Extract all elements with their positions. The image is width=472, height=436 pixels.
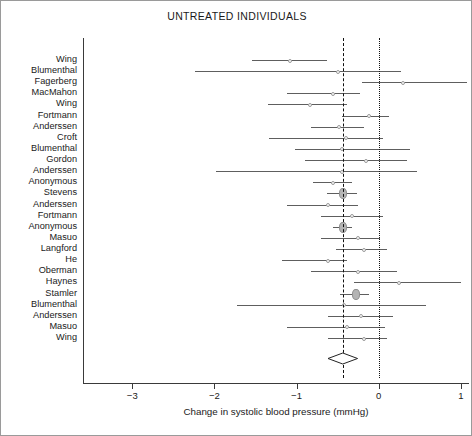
x-tick-mark bbox=[297, 384, 298, 389]
study-label: Fagerberg bbox=[1, 76, 77, 86]
confidence-interval-line bbox=[287, 327, 386, 328]
effect-estimate-marker bbox=[337, 125, 341, 129]
effect-estimate-marker bbox=[288, 59, 292, 63]
study-label: Langford bbox=[1, 243, 77, 253]
study-label: Anonymous bbox=[1, 221, 77, 231]
effect-estimate-marker bbox=[397, 281, 401, 285]
study-label: Wing bbox=[1, 332, 77, 342]
effect-estimate-marker bbox=[331, 92, 335, 96]
study-label: Fortmann bbox=[1, 110, 77, 120]
effect-estimate-marker bbox=[326, 203, 330, 207]
confidence-interval-line bbox=[305, 160, 408, 161]
study-label: MacMahon bbox=[1, 87, 77, 97]
null-effect-line bbox=[379, 38, 380, 378]
study-label-column: WingBlumenthalFagerbergMacMahonWingFortm… bbox=[1, 38, 77, 384]
pooled-effect-line bbox=[343, 38, 344, 378]
effect-estimate-marker bbox=[345, 325, 349, 329]
x-tick-mark bbox=[214, 384, 215, 389]
confidence-interval-line bbox=[321, 238, 380, 239]
effect-estimate-marker bbox=[331, 181, 335, 185]
confidence-interval-line bbox=[287, 93, 360, 94]
summary-diamond bbox=[325, 352, 361, 365]
effect-estimate-marker bbox=[352, 289, 360, 300]
effect-estimate-marker bbox=[356, 270, 360, 274]
x-axis-ticks: −3−2−101 bbox=[83, 384, 469, 390]
study-label: Anonymous bbox=[1, 176, 77, 186]
effect-estimate-marker bbox=[350, 214, 354, 218]
study-label: Oberman bbox=[1, 265, 77, 275]
plot-area bbox=[83, 38, 469, 384]
confidence-interval-line bbox=[287, 205, 358, 206]
x-axis-title: Change in systolic blood pressure (mmHg) bbox=[83, 406, 469, 417]
study-label: Masuo bbox=[1, 232, 77, 242]
confidence-interval-line bbox=[269, 138, 382, 139]
x-tick-label: −1 bbox=[291, 390, 302, 401]
confidence-interval-line bbox=[354, 282, 461, 283]
x-tick-mark bbox=[379, 384, 380, 389]
effect-estimate-marker bbox=[359, 314, 363, 318]
effect-estimate-marker bbox=[336, 70, 340, 74]
study-label: He bbox=[1, 254, 77, 264]
x-tick-label: 1 bbox=[458, 390, 463, 401]
effect-estimate-marker bbox=[308, 103, 312, 107]
study-label: Blumenthal bbox=[1, 299, 77, 309]
study-label: Masuo bbox=[1, 321, 77, 331]
study-label: Anderssen bbox=[1, 121, 77, 131]
effect-estimate-marker bbox=[364, 159, 368, 163]
study-label: Wing bbox=[1, 54, 77, 64]
page-title: UNTREATED INDIVIDUALS bbox=[1, 10, 472, 22]
study-label: Stevens bbox=[1, 187, 77, 197]
study-label: Croft bbox=[1, 132, 77, 142]
study-label: Fortmann bbox=[1, 210, 77, 220]
study-label: Stamler bbox=[1, 288, 77, 298]
effect-estimate-marker bbox=[326, 259, 330, 263]
effect-estimate-marker bbox=[362, 337, 366, 341]
confidence-interval-line bbox=[216, 171, 417, 172]
confidence-interval-line bbox=[342, 116, 389, 117]
study-label: Gordon bbox=[1, 154, 77, 164]
effect-estimate-marker bbox=[362, 248, 366, 252]
study-label: Blumenthal bbox=[1, 143, 77, 153]
confidence-interval-line bbox=[295, 149, 410, 150]
study-label: Wing bbox=[1, 98, 77, 108]
confidence-interval-line bbox=[195, 71, 401, 72]
study-label: Anderssen bbox=[1, 165, 77, 175]
y-axis-spine bbox=[83, 38, 84, 384]
confidence-interval-line bbox=[282, 260, 348, 261]
x-tick-mark bbox=[132, 384, 133, 389]
x-tick-label: 0 bbox=[376, 390, 381, 401]
effect-estimate-marker bbox=[401, 81, 405, 85]
x-tick-mark bbox=[461, 384, 462, 389]
study-label: Haynes bbox=[1, 276, 77, 286]
confidence-interval-line bbox=[237, 305, 426, 306]
effect-estimate-marker bbox=[367, 114, 371, 118]
forest-plot-figure: UNTREATED INDIVIDUALS WingBlumenthalFage… bbox=[0, 0, 472, 436]
x-tick-label: −3 bbox=[127, 390, 138, 401]
confidence-interval-line bbox=[311, 271, 396, 272]
study-label: Anderssen bbox=[1, 310, 77, 320]
study-label: Anderssen bbox=[1, 199, 77, 209]
effect-estimate-marker bbox=[356, 236, 360, 240]
study-label: Blumenthal bbox=[1, 65, 77, 75]
x-tick-label: −2 bbox=[209, 390, 220, 401]
effect-estimate-marker bbox=[344, 136, 348, 140]
